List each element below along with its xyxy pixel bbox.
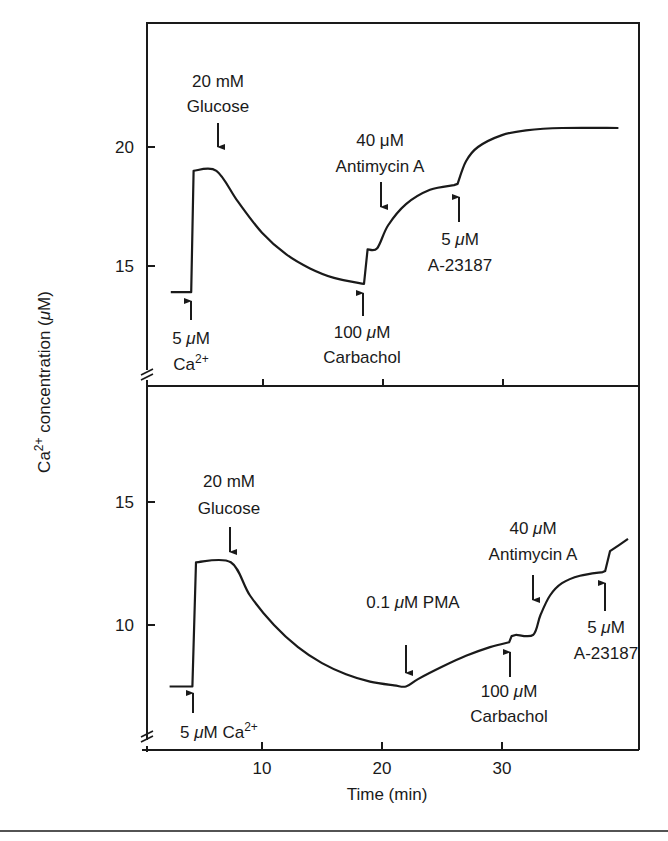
x-ticks [262, 379, 503, 750]
bottom-annotation-antimycin: 40 μM Antimycin A [489, 519, 578, 600]
bottom-annotation-a23187: 5 μM A-23187 [574, 583, 638, 663]
top-annotation-calcium: 5 μM Ca2+ [172, 301, 210, 374]
x-axis-title: Time (min) [347, 785, 428, 804]
top-annotation-carbachol: 100 μM Carbachol [323, 293, 401, 367]
top-annotation-glucose: 20 mM Glucose [187, 72, 249, 147]
y-tick-labels: 20 15 15 10 [115, 138, 134, 635]
svg-text:A-23187: A-23187 [574, 644, 638, 663]
top-annotation-antimycin: 40 μM Antimycin A [336, 131, 425, 207]
top-panel-trace [171, 128, 619, 292]
svg-text:5 μM Ca2+: 5 μM Ca2+ [180, 720, 258, 742]
svg-text:20 mM: 20 mM [203, 472, 255, 491]
svg-text:A-23187: A-23187 [428, 256, 492, 275]
svg-text:Glucose: Glucose [198, 499, 260, 518]
svg-text:0.1 μM PMA: 0.1 μM PMA [366, 593, 460, 612]
tick-label-bottom-15: 15 [115, 493, 134, 512]
tick-label-x-10: 10 [253, 759, 272, 778]
bottom-annotation-carbachol: 100 μM Carbachol [470, 652, 548, 726]
svg-text:5 μM: 5 μM [172, 329, 210, 348]
svg-text:100 μM: 100 μM [481, 682, 538, 701]
x-tick-labels: 10 20 30 [253, 759, 512, 778]
svg-text:40 μM: 40 μM [509, 519, 556, 538]
svg-text:100 μM: 100 μM [334, 323, 391, 342]
bottom-annotation-pma: 0.1 μM PMA [366, 593, 460, 673]
tick-label-x-30: 30 [493, 759, 512, 778]
top-annotation-a23187: 5 μM A-23187 [428, 197, 492, 275]
tick-label-x-20: 20 [373, 759, 392, 778]
svg-text:40 μM: 40 μM [356, 131, 404, 150]
bottom-annotation-glucose: 20 mM Glucose [198, 472, 260, 552]
tick-label-top-20: 20 [115, 138, 134, 157]
calcium-concentration-figure: 20 15 15 10 10 20 30 Time (min) Ca2+ con… [0, 0, 668, 841]
svg-text:20 mM: 20 mM [192, 72, 244, 91]
y-axis-title: Ca2+ concentration (μM) [32, 291, 54, 473]
svg-text:Antimycin A: Antimycin A [489, 545, 578, 564]
svg-text:Glucose: Glucose [187, 97, 249, 116]
tick-label-top-15: 15 [115, 257, 134, 276]
svg-text:Carbachol: Carbachol [470, 707, 548, 726]
svg-text:5 μM: 5 μM [441, 230, 479, 249]
bottom-annotation-calcium: 5 μM Ca2+ [180, 693, 258, 742]
tick-label-bottom-10: 10 [115, 616, 134, 635]
svg-text:Ca2+: Ca2+ [173, 352, 208, 374]
svg-text:5 μM: 5 μM [587, 618, 625, 637]
svg-text:Carbachol: Carbachol [323, 348, 401, 367]
svg-text:Antimycin A: Antimycin A [336, 157, 425, 176]
